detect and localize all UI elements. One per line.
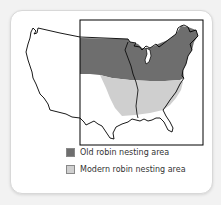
legend-label-old: Old robin nesting area bbox=[80, 148, 169, 157]
modern-nesting-area bbox=[100, 75, 183, 116]
legend-swatch-modern bbox=[66, 165, 75, 174]
legend-item-modern: Modern robin nesting area bbox=[66, 165, 186, 174]
legend-label-modern: Modern robin nesting area bbox=[80, 165, 186, 174]
legend-swatch-old bbox=[66, 148, 75, 157]
legend-item-old: Old robin nesting area bbox=[66, 148, 169, 157]
us-map bbox=[0, 0, 221, 205]
old-nesting-area bbox=[80, 26, 198, 81]
